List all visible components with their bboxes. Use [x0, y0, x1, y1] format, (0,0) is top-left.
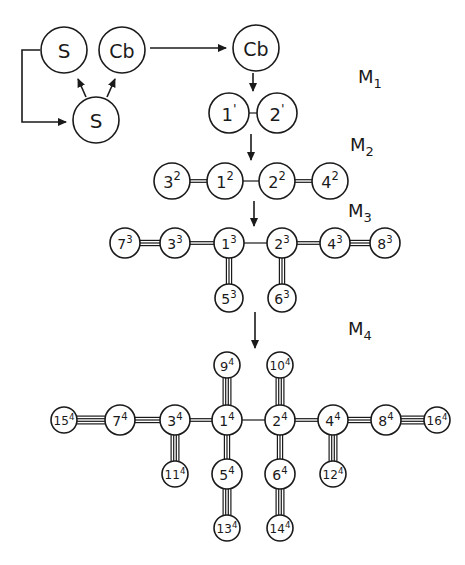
- bonds-layer: [77, 113, 424, 515]
- node-7_4: 74: [105, 405, 135, 435]
- bond-2_2-4_2-order-2: [295, 180, 312, 183]
- bond-2_4-4_4-order-2: [295, 419, 318, 422]
- node-S_bottom: S: [73, 97, 119, 143]
- bond-7_4-3_4-order-3: [135, 417, 160, 422]
- bond-5_4-13_4-order-4: [223, 489, 231, 515]
- nodes-layer: SCbSCb1'2'321222427333132343835363941041…: [41, 25, 450, 541]
- S-to-S-arrow: [78, 79, 86, 97]
- bond-2_3-4_3-order-2: [297, 242, 320, 245]
- node-15_4: 154: [51, 407, 77, 433]
- bond-1_4-5_4-order-3: [224, 435, 229, 459]
- bond-2_4-6_4-order-3: [277, 435, 282, 459]
- bond-7_3-3_3-order-3: [140, 240, 160, 245]
- stage-label-M3: M3: [348, 200, 372, 225]
- node-Cb_top: Cb: [99, 27, 145, 73]
- bond-15_4-7_4-order-4: [77, 416, 105, 424]
- stage-labels-layer: M1M2M3M4: [348, 66, 382, 343]
- growth-diagram: SCbSCb1'2'321222427333132343835363941041…: [0, 0, 465, 565]
- bond-4_4-8_4-order-3: [348, 417, 371, 422]
- node-6_3: 63: [268, 284, 296, 312]
- bond-10_4-2_4-order-4: [276, 378, 284, 405]
- node-4_3: 43: [320, 228, 350, 258]
- bond-2_3-6_3-order-3: [279, 258, 284, 284]
- node-label: Cb: [243, 38, 268, 60]
- node-3_2: 32: [154, 163, 190, 199]
- bond-3_3-1_3-order-2: [190, 242, 214, 245]
- node-3_4: 34: [160, 405, 190, 435]
- node-9_4: 94: [214, 352, 240, 378]
- node-1_3: 13: [214, 228, 244, 258]
- node-13_4: 134: [214, 515, 240, 541]
- bond-8_4-16_4-order-4: [401, 416, 424, 424]
- node-label: S: [90, 109, 103, 133]
- node-4_2: 42: [312, 163, 348, 199]
- node-2_4: 24: [265, 405, 295, 435]
- stage-label-M2: M2: [350, 134, 374, 159]
- node-4_4: 44: [318, 405, 348, 435]
- bond-1_3-5_3-order-3: [226, 258, 231, 284]
- node-1_4: 14: [212, 405, 242, 435]
- S-to-Cb-arrow: [107, 79, 115, 97]
- node-2_1: 2': [257, 93, 297, 133]
- bond-4_3-8_3-order-3: [350, 240, 370, 245]
- bond-3_2-1_2-order-2: [190, 180, 207, 183]
- stage-label-M1: M1: [358, 66, 382, 91]
- node-7_3: 73: [110, 228, 140, 258]
- bond-9_4-1_4-order-4: [223, 378, 231, 405]
- bond-6_4-14_4-order-4: [276, 489, 284, 515]
- node-1_2: 12: [207, 163, 243, 199]
- node-11_4: 114: [162, 461, 188, 487]
- node-12_4: 124: [320, 461, 346, 487]
- bond-3_4-1_4-order-2: [190, 419, 212, 422]
- node-Cb_right: Cb: [233, 25, 279, 71]
- node-8_4: 84: [371, 405, 401, 435]
- node-2_2: 22: [259, 163, 295, 199]
- node-6_4: 64: [265, 459, 295, 489]
- node-8_3: 83: [370, 228, 400, 258]
- node-5_3: 53: [215, 284, 243, 312]
- node-5_4: 54: [212, 459, 242, 489]
- node-S_top: S: [41, 27, 87, 73]
- node-14_4: 144: [267, 515, 293, 541]
- bond-3_4-11_4-order-4: [171, 435, 179, 461]
- stage-label-M4: M4: [348, 318, 372, 343]
- node-label: S: [58, 39, 71, 63]
- node-10_4: 104: [267, 352, 293, 378]
- node-1_1: 1': [209, 93, 249, 133]
- bond-4_4-12_4-order-4: [329, 435, 337, 461]
- node-16_4: 164: [424, 407, 450, 433]
- node-label: Cb: [109, 40, 134, 62]
- node-3_3: 33: [160, 228, 190, 258]
- node-2_3: 23: [267, 228, 297, 258]
